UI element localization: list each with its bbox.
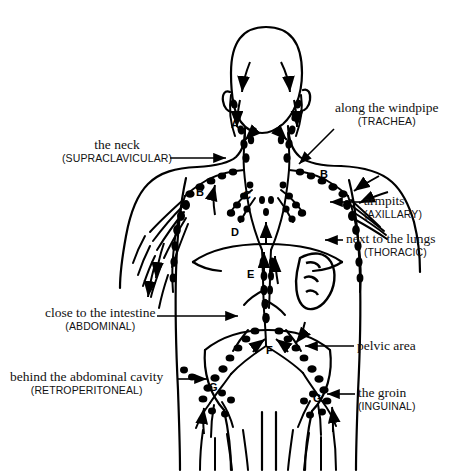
region-marker-b-left: B	[196, 186, 204, 198]
region-marker-c: C	[243, 189, 251, 201]
callout-thoracic-secondary: (THORACIC)	[364, 247, 436, 258]
region-marker-b-right: B	[320, 168, 328, 180]
callout-axillary: armpits (AXILLARY)	[364, 194, 422, 220]
callout-trachea-primary: along the windpipe	[335, 101, 438, 115]
callout-retroperitoneal-secondary: (RETROPERITONEAL)	[10, 385, 163, 396]
region-marker-a: A	[231, 118, 239, 130]
callout-thoracic-primary: next to the lungs	[346, 232, 436, 246]
callout-supraclavicular-primary: the neck	[62, 138, 172, 152]
callout-thoracic: next to the lungs (THORACIC)	[346, 232, 436, 258]
callout-abdominal-secondary: (ABDOMINAL)	[45, 321, 156, 332]
callout-abdominal: close to the intestine (ABDOMINAL)	[45, 306, 156, 332]
callout-trachea: along the windpipe (TRACHEA)	[335, 101, 438, 127]
spleen-shape	[296, 253, 334, 309]
region-marker-e: E	[247, 268, 254, 280]
callout-trachea-secondary: (TRACHEA)	[335, 116, 438, 127]
callout-supraclavicular-secondary: (SUPRACLAVICULAR)	[62, 153, 172, 164]
callout-axillary-primary: armpits	[364, 194, 422, 208]
callout-supraclavicular: the neck (SUPRACLAVICULAR)	[62, 138, 172, 164]
region-marker-d: D	[231, 226, 239, 238]
callout-retroperitoneal: behind the abdominal cavity (RETROPERITO…	[10, 370, 163, 396]
callout-axillary-secondary: (AXILLARY)	[364, 209, 422, 220]
region-marker-g-right: G	[313, 392, 322, 404]
callout-pelvic-primary: pelvic area	[357, 339, 416, 353]
callout-inguinal-secondary: (INGUINAL)	[358, 401, 416, 412]
lymphatic-system-figure: the neck (SUPRACLAVICULAR) along the win…	[0, 0, 472, 475]
leader-trachea	[299, 129, 334, 164]
callout-retroperitoneal-primary: behind the abdominal cavity	[10, 370, 163, 384]
callout-inguinal: the groin (INGUINAL)	[358, 386, 416, 412]
callout-abdominal-primary: close to the intestine	[45, 306, 156, 320]
callout-pelvic: pelvic area	[357, 339, 416, 353]
region-marker-f: F	[266, 344, 273, 356]
region-marker-g-left: G	[209, 381, 218, 393]
callout-inguinal-primary: the groin	[358, 386, 416, 400]
